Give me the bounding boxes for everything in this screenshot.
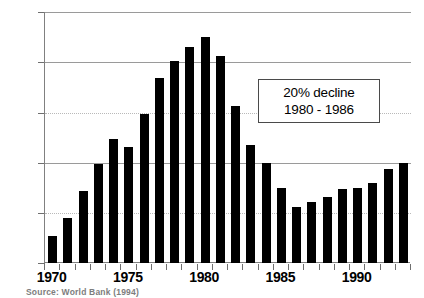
x-axis-tick-mark xyxy=(410,264,411,270)
x-axis-tick-label-1975: 1975 xyxy=(98,270,158,284)
bar-1975 xyxy=(124,147,133,263)
bar-1972 xyxy=(79,191,88,263)
plot-area xyxy=(44,12,410,263)
annotation-callout: 20% decline 1980 - 1986 xyxy=(258,79,380,123)
bar-1981 xyxy=(216,56,225,263)
x-axis-tick-label-1980: 1980 xyxy=(174,270,234,284)
annotation-line-1: 20% decline xyxy=(283,85,354,101)
bar-1988 xyxy=(323,197,332,263)
bar-1985 xyxy=(277,188,286,263)
bar-1991 xyxy=(368,183,377,263)
bar-1980 xyxy=(201,37,210,263)
x-axis-tick-label-1970: 1970 xyxy=(22,270,82,284)
bar-series xyxy=(45,12,411,263)
x-axis-tick-mark xyxy=(242,264,243,270)
bar-1974 xyxy=(109,139,118,263)
bar-1983 xyxy=(246,145,255,263)
bar-1990 xyxy=(353,188,362,263)
annotation-line-2: 1980 - 1986 xyxy=(284,102,354,118)
bar-1989 xyxy=(338,189,347,263)
bar-1976 xyxy=(140,114,149,263)
bar-chart-figure: 2,700 2,540 2,380 2,220 2,060 1,900 1970… xyxy=(0,0,424,298)
bar-1971 xyxy=(63,218,72,263)
x-axis-tick-mark xyxy=(395,264,396,270)
bar-1977 xyxy=(155,78,164,263)
x-axis-tick-mark xyxy=(90,264,91,270)
bar-1984 xyxy=(262,163,271,263)
bar-1987 xyxy=(307,202,316,263)
x-axis-tick-label-1985: 1985 xyxy=(250,270,310,284)
bar-1992 xyxy=(384,169,393,263)
bar-1982 xyxy=(231,106,240,263)
bar-1986 xyxy=(292,207,301,263)
x-axis-tick-mark xyxy=(319,264,320,270)
source-note: Source: World Bank (1994) xyxy=(26,287,139,297)
bar-1970 xyxy=(48,236,57,263)
bar-1978 xyxy=(170,61,179,263)
bar-1993 xyxy=(399,163,408,263)
x-axis-tick-mark xyxy=(166,264,167,270)
x-axis-tick-label-1990: 1990 xyxy=(327,270,387,284)
bar-1979 xyxy=(185,47,194,263)
bar-1973 xyxy=(94,164,103,263)
